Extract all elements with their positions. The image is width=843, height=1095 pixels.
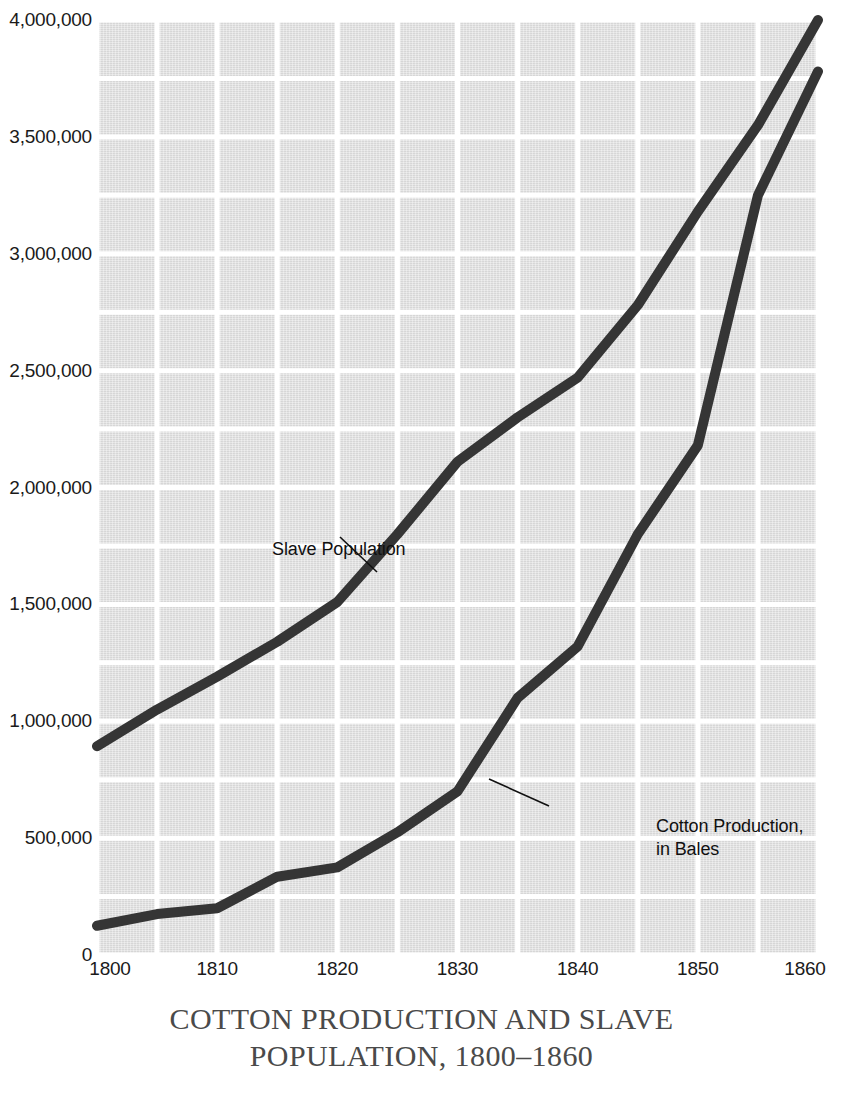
y-axis-tick-label: 2,000,000 [4,477,92,499]
plot-area: Slave Population Cotton Production, in B… [97,20,818,955]
y-axis-tick-label: 4,000,000 [4,9,92,31]
chart-caption: COTTON PRODUCTION AND SLAVE POPULATION, … [0,1000,843,1074]
chart-figure: 0500,0001,000,0001,500,0002,000,0002,500… [0,0,843,1095]
y-axis-tick-label: 0 [4,944,92,966]
y-axis-tick-label: 2,500,000 [4,360,92,382]
caption-line-1: COTTON PRODUCTION AND SLAVE [0,1000,843,1037]
series-label-slave-population: Slave Population [272,538,406,561]
y-axis-tick-label: 1,500,000 [4,593,92,615]
y-axis: 0500,0001,000,0001,500,0002,000,0002,500… [0,20,92,955]
leader-line-cotton-production [489,779,549,806]
x-axis-tick-label: 1820 [317,958,358,980]
x-axis-tick-label: 1800 [89,958,130,980]
x-axis-tick-label: 1830 [437,958,478,980]
y-axis-tick-label: 3,500,000 [4,126,92,148]
x-axis: 1800181018201830184018501860 [97,958,818,986]
x-axis-tick-label: 1860 [784,958,825,980]
series-label-cotton-production: Cotton Production, in Bales [656,815,803,861]
x-axis-tick-label: 1810 [196,958,237,980]
caption-line-2: POPULATION, 1800–1860 [0,1037,843,1074]
y-axis-tick-label: 500,000 [4,827,92,849]
x-axis-tick-label: 1840 [557,958,598,980]
y-axis-tick-label: 3,000,000 [4,243,92,265]
y-axis-tick-label: 1,000,000 [4,710,92,732]
x-axis-tick-label: 1850 [677,958,718,980]
